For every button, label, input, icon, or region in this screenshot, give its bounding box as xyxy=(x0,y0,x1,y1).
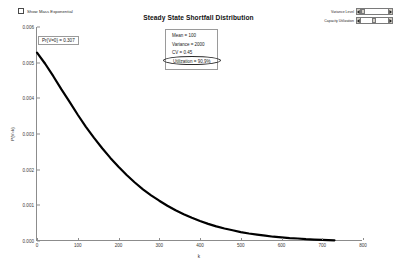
y-axis-tick-label: 0.000 xyxy=(23,239,35,244)
y-axis-tick-mark xyxy=(37,205,40,206)
show-mass-exponential-label: Show Mass Exponential xyxy=(27,9,73,14)
y-axis-tick-label: 0.006 xyxy=(23,25,35,30)
stats-mean: Mean = 100 xyxy=(172,32,211,41)
spinner-variance-level-control[interactable] xyxy=(356,8,393,15)
stats-utilization-row: Utilization = 90.9% xyxy=(172,58,211,67)
y-axis-tick-mark xyxy=(37,62,40,63)
x-axis-tick-mark xyxy=(282,238,283,241)
x-axis-tick-mark xyxy=(322,238,323,241)
y-axis-tick-mark xyxy=(37,27,40,28)
stats-annotation-box: Mean = 100 Variance = 2000 CV = 0.45 Uti… xyxy=(165,29,218,70)
x-axis-tick-label: 500 xyxy=(237,243,245,248)
shortfall-distribution-curve xyxy=(37,53,334,241)
x-axis-tick-mark xyxy=(78,238,79,241)
spinner-variance-level[interactable]: Variance Level xyxy=(324,8,393,15)
x-axis-tick-label: 100 xyxy=(74,243,82,248)
x-axis-label: k xyxy=(36,254,362,259)
x-axis-tick-label: 800 xyxy=(359,243,367,248)
spinner-capacity-utilization-thumb[interactable] xyxy=(372,18,376,23)
spinner-controls: Variance Level Capacity Utilization xyxy=(324,8,393,24)
spinner-right-arrow-icon[interactable] xyxy=(388,8,393,15)
spinner-variance-level-track[interactable] xyxy=(361,8,388,15)
x-axis-tick-label: 400 xyxy=(196,243,204,248)
y-axis-tick-mark xyxy=(37,98,40,99)
y-axis-tick-label: 0.001 xyxy=(23,203,35,208)
y-axis-tick-mark xyxy=(37,169,40,170)
y-axis-tick-mark xyxy=(37,134,40,135)
y-axis-tick-label: 0.003 xyxy=(23,132,35,137)
x-axis-tick-mark xyxy=(363,238,364,241)
x-axis-tick-mark xyxy=(119,238,120,241)
y-axis-label: P{V=k} xyxy=(10,127,15,141)
x-axis-tick-mark xyxy=(241,238,242,241)
y-axis-tick-label: 0.005 xyxy=(23,60,35,65)
x-axis-tick-mark xyxy=(37,238,38,241)
x-axis-tick-label: 0 xyxy=(36,243,39,248)
x-axis-tick-mark xyxy=(200,238,201,241)
stats-utilization: Utilization = 90.9% xyxy=(173,59,210,64)
spinner-capacity-utilization[interactable]: Capacity Utilization xyxy=(324,17,393,24)
x-axis-tick-label: 700 xyxy=(318,243,326,248)
spinner-right-arrow-icon[interactable] xyxy=(388,17,393,24)
spinner-capacity-utilization-control[interactable] xyxy=(356,17,393,24)
x-axis-tick-label: 600 xyxy=(278,243,286,248)
stats-cv: CV = 0.45 xyxy=(172,49,211,58)
shortfall-distribution-window: Show Mass Exponential Steady State Short… xyxy=(0,0,397,268)
spinner-capacity-utilization-track[interactable] xyxy=(361,17,388,24)
y-axis-tick-label: 0.002 xyxy=(23,167,35,172)
x-axis-tick-mark xyxy=(159,238,160,241)
spinner-variance-level-label: Variance Level xyxy=(331,10,354,14)
y-axis-tick-mark xyxy=(37,241,40,242)
pr-zero-annotation: Pr{V=0} = 0.307 xyxy=(38,36,79,45)
stats-variance: Variance = 2000 xyxy=(172,41,211,50)
spinner-capacity-utilization-label: Capacity Utilization xyxy=(324,19,354,23)
spinner-variance-level-thumb[interactable] xyxy=(361,9,365,14)
y-axis-tick-label: 0.004 xyxy=(23,96,35,101)
x-axis-tick-label: 200 xyxy=(115,243,123,248)
x-axis-tick-label: 300 xyxy=(155,243,163,248)
